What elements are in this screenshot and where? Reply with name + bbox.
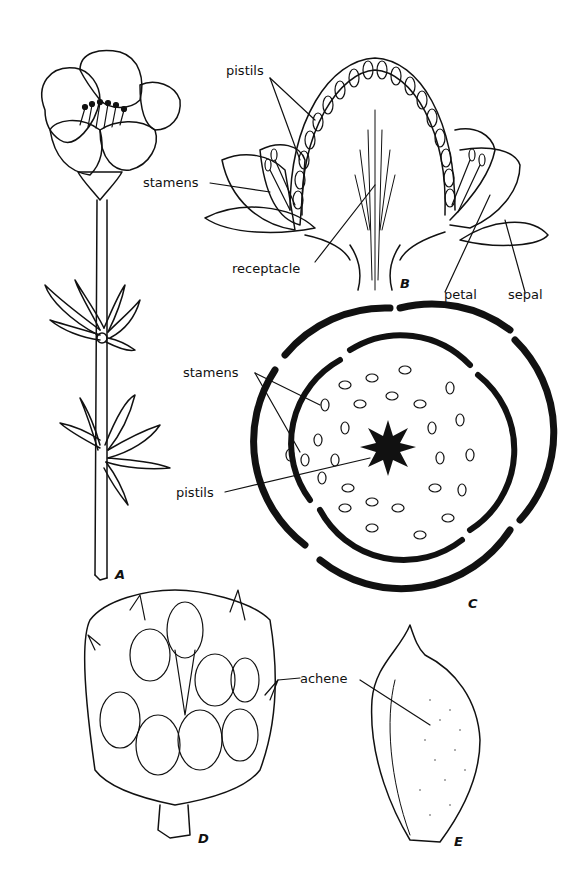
- label-receptacle: receptacle: [232, 262, 300, 275]
- label-stamens-c: stamens: [183, 366, 239, 379]
- figure-letter-b: B: [400, 277, 410, 290]
- label-sepal: sepal: [508, 288, 543, 301]
- figure-letter-d: D: [198, 832, 209, 845]
- figure-letter-a: A: [115, 568, 125, 581]
- figure-letter-c: C: [468, 597, 478, 610]
- figure-c-floral-diagram: [225, 304, 554, 589]
- figure-letter-e: E: [454, 835, 463, 848]
- label-petal: petal: [444, 288, 477, 301]
- figure-a-plant: [42, 51, 180, 580]
- figure-d-fruit-head: [85, 590, 278, 838]
- label-pistils-c: pistils: [176, 486, 214, 499]
- figure-b-section: [205, 58, 548, 292]
- botanical-illustration: [0, 0, 584, 890]
- label-stamens-b: stamens: [143, 176, 199, 189]
- label-pistils-b: pistils: [226, 64, 264, 77]
- pistil-cluster: [360, 420, 416, 476]
- figure-e-achene: [278, 625, 480, 842]
- label-achene: achene: [300, 672, 348, 685]
